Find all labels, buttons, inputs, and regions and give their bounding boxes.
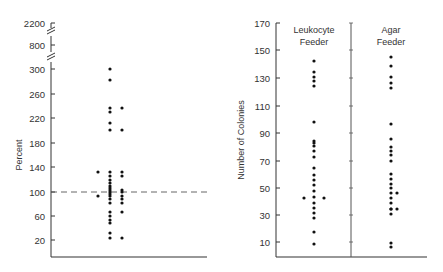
data-point: [312, 120, 315, 123]
data-point: [389, 137, 392, 140]
data-point: [389, 241, 392, 244]
axis-break-icon: [47, 53, 55, 60]
data-point: [389, 201, 392, 204]
group-label-agar-line2: Feeder: [377, 37, 406, 47]
data-point: [389, 196, 392, 199]
data-point: [389, 177, 392, 180]
data-point: [108, 197, 111, 200]
data-point: [389, 153, 392, 156]
data-point: [312, 242, 315, 245]
data-point: [120, 128, 123, 131]
data-point: [389, 145, 392, 148]
data-point: [120, 197, 123, 200]
data-point: [395, 207, 398, 210]
data-point: [108, 181, 111, 184]
data-point: [108, 214, 111, 217]
y-tick-label: 220: [29, 113, 45, 124]
left-y-axis-title: Percent: [14, 139, 24, 171]
data-point: [312, 79, 315, 82]
data-point: [108, 201, 111, 204]
data-point: [312, 75, 315, 78]
data-point: [389, 207, 392, 210]
group-label-leukocyte-line1: Leukocyte: [293, 25, 334, 35]
data-point: [312, 216, 315, 219]
data-point: [312, 230, 315, 233]
y-tick-label: 260: [29, 89, 45, 100]
y-tick-label: 100: [29, 187, 45, 198]
y-tick-label: 20: [34, 235, 45, 246]
data-point: [312, 178, 315, 181]
left-y-axis: [47, 23, 55, 257]
data-point: [108, 121, 111, 124]
group-label-leukocyte-line2: Feeder: [300, 37, 329, 47]
data-point: [389, 212, 392, 215]
data-point: [302, 196, 305, 199]
left-data-points: [96, 67, 123, 239]
data-point: [312, 149, 315, 152]
group-label-agar-line1: Agar: [381, 25, 400, 35]
y-tick-label: 10: [259, 237, 270, 248]
data-point: [120, 236, 123, 239]
data-point: [312, 211, 315, 214]
data-point: [389, 172, 392, 175]
y-tick-label: 130: [254, 73, 270, 84]
data-point: [108, 67, 111, 70]
data-point: [312, 189, 315, 192]
data-point: [108, 231, 111, 234]
data-point: [120, 106, 123, 109]
data-point: [389, 86, 392, 89]
data-point: [312, 141, 315, 144]
data-point: [312, 70, 315, 73]
y-tick-label: 800: [29, 40, 45, 51]
data-point: [312, 84, 315, 87]
data-point: [389, 182, 392, 185]
y-tick-label: 90: [259, 128, 270, 139]
right-tick-group: 1701501301109070503010: [254, 18, 353, 248]
y-tick-label: 2200: [24, 18, 45, 29]
data-point: [108, 128, 111, 131]
data-point: [108, 210, 111, 213]
data-point: [120, 194, 123, 197]
y-tick-label: 170: [254, 18, 270, 29]
data-point: [389, 75, 392, 78]
data-point: [108, 194, 111, 197]
y-tick-label: 30: [259, 210, 270, 221]
data-point: [312, 206, 315, 209]
y-tick-label: 180: [29, 138, 45, 149]
data-point: [312, 59, 315, 62]
y-tick-label: 140: [29, 162, 45, 173]
data-point: [389, 55, 392, 58]
data-point: [389, 149, 392, 152]
data-point: [108, 106, 111, 109]
data-point: [312, 166, 315, 169]
y-tick-label: 110: [255, 101, 270, 112]
data-point: [389, 159, 392, 162]
data-point: [389, 81, 392, 84]
left-tick-group: 22008003002602201801401006020: [24, 18, 55, 246]
data-point: [322, 196, 325, 199]
data-point: [108, 174, 111, 177]
data-point: [389, 122, 392, 125]
data-point: [389, 186, 392, 189]
axis-break-icon: [47, 27, 55, 34]
data-point: [96, 194, 99, 197]
data-point: [312, 195, 315, 198]
data-point: [120, 210, 123, 213]
data-point: [108, 78, 111, 81]
data-point: [108, 178, 111, 181]
data-point: [312, 144, 315, 147]
data-point: [96, 170, 99, 173]
data-point: [389, 245, 392, 248]
y-tick-label: 150: [254, 45, 270, 56]
y-tick-label: 60: [34, 211, 45, 222]
data-point: [108, 170, 111, 173]
data-point: [312, 183, 315, 186]
data-point: [120, 174, 123, 177]
y-tick-label: 70: [259, 156, 270, 167]
data-point: [312, 201, 315, 204]
right-y-axis-title: Number of Colonies: [236, 100, 246, 180]
y-tick-label: 50: [259, 183, 270, 194]
data-point: [120, 170, 123, 173]
left-chart: 22008003002602201801401006020 Percent: [14, 18, 207, 258]
data-point: [389, 191, 392, 194]
